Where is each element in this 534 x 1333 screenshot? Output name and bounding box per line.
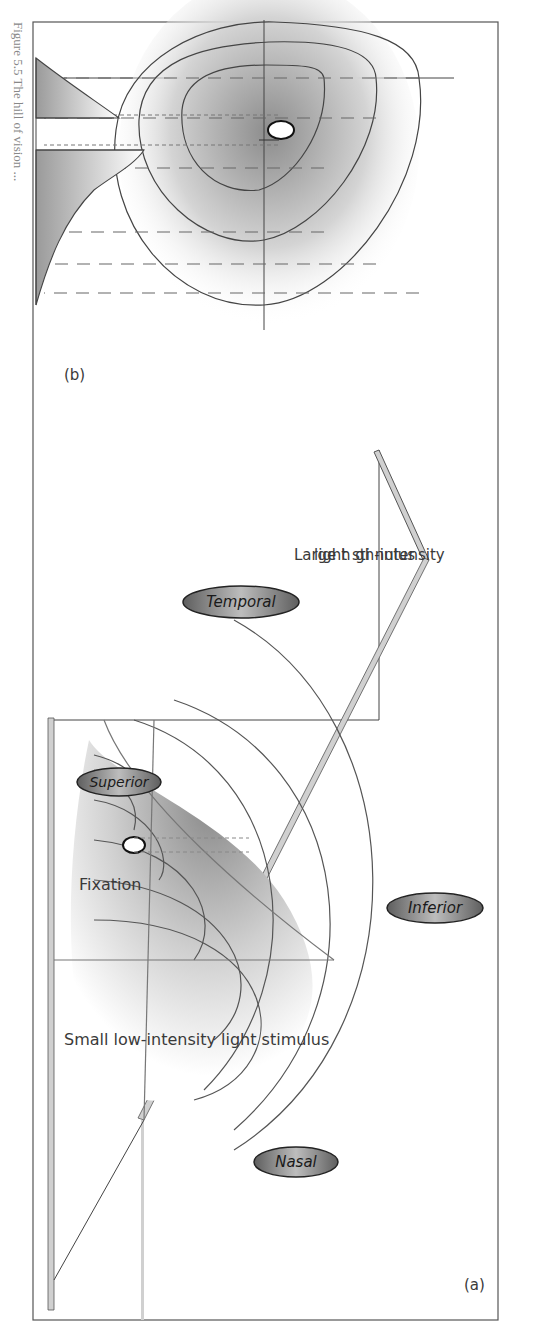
figure-caption: Figure 5.5 The hill of vision ... [0,22,26,1322]
figure-svg: (b) [0,0,534,1333]
svg-text:Temporal: Temporal [206,593,276,611]
svg-text:Superior: Superior [89,774,149,790]
panel-a: Superior Temporal Inferior Nasal Small l… [48,450,485,1330]
label-fixation: Fixation [79,875,141,894]
blind-spot [268,121,294,139]
oval-nasal: Nasal [254,1147,338,1177]
label-large-stimulus-2: light sti nulus [314,546,415,564]
svg-text:Inferior: Inferior [408,899,463,917]
panel-b-label: (b) [64,366,85,384]
figure-canvas: (b) [0,0,534,1333]
oval-superior: Superior [77,768,161,796]
panel-a-label: (a) [464,1276,485,1294]
oval-temporal: Temporal [183,586,299,618]
panel-b: (b) [34,0,454,384]
stimulus-small [123,837,145,853]
oval-inferior: Inferior [387,893,483,923]
label-small-stimulus: Small low-intensity light stimulus [64,1030,329,1049]
svg-text:Nasal: Nasal [275,1153,317,1171]
